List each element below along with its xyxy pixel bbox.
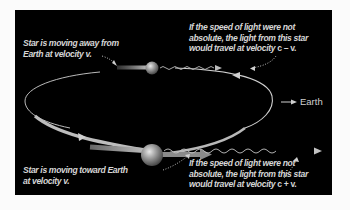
earth-arrow-icon	[291, 100, 297, 105]
orbit-arrow-icon	[78, 133, 86, 141]
caption-approaching-light: If the speed of light were not absolute,…	[189, 158, 308, 190]
approaching-star-icon	[141, 144, 163, 166]
caption-line: Star is moving away from	[23, 38, 119, 49]
caption-line: absolute, the light from this star	[189, 169, 308, 180]
caption-line: at velocity v.	[23, 176, 128, 187]
receding-star-trail	[117, 66, 147, 70]
orbit	[25, 68, 272, 153]
receding-star-icon	[146, 62, 159, 75]
formula-c-minus-v: c – v.	[277, 43, 296, 53]
caption-line: absolute, the light from this star	[189, 33, 308, 44]
caption-approaching-star: Star is moving toward Earth at velocity …	[23, 165, 128, 186]
caption-text: would travel at velocity	[189, 179, 277, 189]
formula-c-plus-v: c + v.	[277, 179, 296, 189]
caption-line: Earth at velocity v.	[23, 49, 119, 60]
pointer-arrow-icon	[112, 60, 117, 66]
caption-line: If the speed of light were not	[189, 22, 308, 33]
caption-text: would travel at velocity	[189, 43, 277, 53]
orbit-arrow-icon	[232, 72, 240, 79]
caption-line: would travel at velocity c + v.	[189, 179, 308, 190]
caption-line: If the speed of light were not	[189, 158, 308, 169]
light-wave-arrow-icon	[215, 65, 222, 71]
caption-line: Star is moving toward Earth	[23, 165, 128, 176]
light-wave-arrow-icon	[314, 148, 322, 155]
earth-label: Earth	[300, 96, 323, 107]
caption-receding-light: If the speed of light were not absolute,…	[189, 22, 308, 54]
caption-receding-star: Star is moving away from Earth at veloci…	[23, 38, 119, 59]
caption-line: would travel at velocity c – v.	[189, 43, 308, 54]
pointer-arrow-icon	[250, 66, 255, 71]
receding-star-group	[117, 62, 222, 75]
